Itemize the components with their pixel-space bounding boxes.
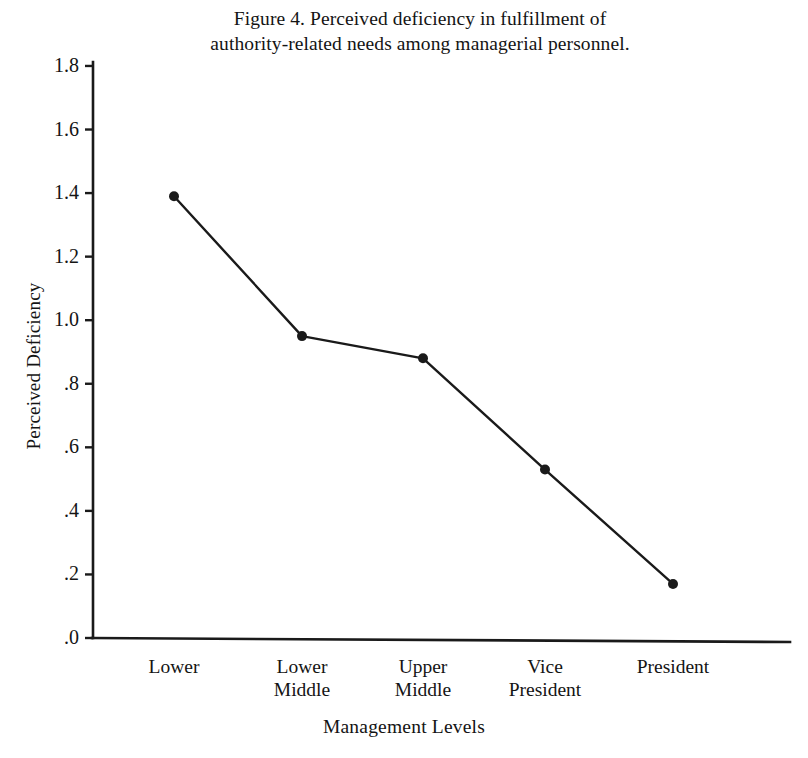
x-axis-tick-label-line-1: President bbox=[637, 656, 710, 677]
line-chart-svg: Lower: 1.39Lower Middle: 0.95Upper Middl… bbox=[0, 0, 808, 758]
x-axis-title: Management Levels bbox=[0, 716, 808, 738]
data-series-line bbox=[174, 196, 673, 584]
x-axis-tick-label: President bbox=[598, 655, 748, 678]
x-axis-line bbox=[92, 638, 790, 642]
data-point-marker: Lower: 1.39 bbox=[169, 191, 179, 201]
y-axis-tick-label: 1.6 bbox=[9, 119, 79, 139]
data-point-marker: Lower Middle: 0.95 bbox=[297, 331, 307, 341]
y-axis-tick-label: .2 bbox=[9, 563, 79, 583]
figure-container: Figure 4. Perceived deficiency in fulfil… bbox=[0, 0, 808, 758]
y-axis-tick-label: .0 bbox=[9, 627, 79, 647]
x-axis-tick-label-line-1: Lower bbox=[149, 656, 200, 677]
y-axis-title: Perceived Deficiency bbox=[23, 246, 45, 486]
x-axis-tick-label-line-1: Lower bbox=[277, 656, 328, 677]
data-point-marker: President: 0.17 bbox=[668, 579, 678, 589]
x-axis-tick-label-line-1: Upper bbox=[399, 656, 448, 677]
x-axis-tick-label-line-1: Vice bbox=[527, 656, 563, 677]
x-axis-tick-label-line-2: President bbox=[470, 678, 620, 701]
y-axis-tick-label: 1.8 bbox=[9, 55, 79, 75]
y-axis-tick-label: .4 bbox=[9, 500, 79, 520]
plot-area: Lower: 1.39Lower Middle: 0.95Upper Middl… bbox=[0, 0, 808, 758]
data-point-marker: Vice President: 0.53 bbox=[540, 465, 550, 475]
y-axis-tick-label: 1.4 bbox=[9, 182, 79, 202]
data-point-markers: Lower: 1.39Lower Middle: 0.95Upper Middl… bbox=[169, 191, 678, 589]
data-point-marker: Upper Middle: 0.88 bbox=[418, 353, 428, 363]
